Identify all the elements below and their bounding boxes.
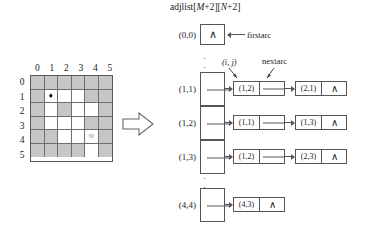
adj-node-nextarc — [260, 150, 284, 163]
grid-cell-wall — [99, 90, 113, 104]
adj-head-pointer-cell — [200, 72, 225, 106]
adj-node: (2,1) ∧ — [295, 81, 347, 96]
transform-arrow-icon — [122, 112, 154, 140]
adj-node-vertex: (1,3) — [296, 116, 322, 129]
head-to-node-link — [225, 81, 233, 96]
head-to-node-link — [225, 197, 233, 212]
adj-head-pointer-cell — [200, 188, 225, 222]
adj-head-pointer-cell — [200, 106, 225, 140]
head-to-node-link — [225, 115, 233, 130]
adj-node: (1,2) — [233, 81, 285, 96]
grid-cell-open — [45, 117, 59, 131]
grid-cell-open — [72, 130, 86, 144]
grid-cell-wall — [31, 76, 45, 90]
grid-col-header: 4 — [88, 62, 103, 75]
adj-row-2: (1,2) (1,1) (1,3) ∧ — [170, 112, 347, 133]
adj-row-label: (1,2) — [170, 118, 200, 128]
end-marker-icon: ☺ — [87, 133, 95, 141]
firstarc-label: firstarc — [247, 30, 271, 40]
grid-cell-wall — [85, 117, 99, 131]
grid-column-headers: 0 1 2 3 4 5 — [30, 62, 117, 75]
adj-row-1: (1,1) (1,2) (2,1) ∧ — [170, 78, 347, 99]
grid-cell-wall — [72, 144, 86, 158]
adj-row-0: (0,0) ∧ firstarc — [170, 24, 271, 45]
grid-cell-open — [72, 90, 86, 104]
adj-row-label: (1,1) — [170, 84, 200, 94]
grid-cell-open — [58, 130, 72, 144]
adj-node-nil: ∧ — [322, 82, 346, 95]
grid-cell-open — [85, 144, 99, 158]
grid-cell-wall — [31, 103, 45, 117]
adj-node-vertex: (2,3) — [296, 150, 322, 163]
grid-cell-open: ☺ — [85, 130, 99, 144]
grid-row: ♦ — [31, 90, 112, 104]
grid-cell-open — [58, 90, 72, 104]
maze-grid-panel: 0 1 2 3 4 5 0 1 2 3 4 5 ♦☺ — [14, 62, 117, 162]
grid-cell-wall — [99, 117, 113, 131]
node-to-node-link — [285, 149, 295, 164]
grid-row — [31, 103, 112, 117]
adj-node-vertex: (1,2) — [234, 150, 260, 163]
adj-node: (1,2) — [233, 149, 285, 164]
grid-row-header: 0 — [14, 75, 30, 90]
grid-col-header: 3 — [74, 62, 89, 75]
adj-node-vertex: (1,2) — [234, 82, 260, 95]
grid-cell-wall — [31, 130, 45, 144]
firstarc-leader — [227, 27, 245, 42]
grid-cell-open — [85, 103, 99, 117]
grid-cell-wall — [72, 76, 86, 90]
grid-cell-wall — [45, 144, 59, 158]
grid-cell-wall — [58, 76, 72, 90]
grid-cell-wall — [45, 76, 59, 90]
adj-row-label: (4,4) — [170, 200, 200, 210]
grid-row-headers: 0 1 2 3 4 5 — [14, 75, 30, 162]
adj-node-nextarc — [260, 116, 284, 129]
grid-cell-open — [72, 103, 86, 117]
adj-node: (1,3) ∧ — [295, 115, 347, 130]
grid-cell-open — [72, 117, 86, 131]
node-to-node-link — [285, 115, 295, 130]
adj-row-label: (0,0) — [170, 30, 200, 40]
adj-row-4: (4,4) (4,3) ∧ — [170, 194, 285, 215]
grid-row-header: 1 — [14, 90, 30, 105]
grid-row-header: 3 — [14, 119, 30, 134]
adj-node-vertex: (2,1) — [296, 82, 322, 95]
nil-symbol: ∧ — [209, 29, 217, 40]
figure-canvas: 0 1 2 3 4 5 0 1 2 3 4 5 ♦☺ adjlist[M+2][… — [0, 0, 367, 235]
adj-node-nextarc — [260, 82, 284, 95]
grid-cell-wall — [45, 130, 59, 144]
adjacency-list-panel: adjlist[M+2][N+2] (0,0) ∧ firstarc ··· (… — [170, 2, 367, 227]
grid-col-header: 1 — [45, 62, 60, 75]
grid-cell-open: ♦ — [45, 90, 59, 104]
adj-head-nil-cell: ∧ — [200, 24, 225, 45]
grid-cell-wall — [31, 117, 45, 131]
grid-cell-wall — [99, 130, 113, 144]
grid-row-header: 4 — [14, 133, 30, 148]
adj-node-nil: ∧ — [322, 116, 346, 129]
adj-node-vertex: (1,1) — [234, 116, 260, 129]
head-to-node-link — [225, 149, 233, 164]
grid-cell-wall — [99, 144, 113, 158]
adj-node: (2,3) ∧ — [295, 149, 347, 164]
grid-cell-wall — [99, 76, 113, 90]
adjlist-title: adjlist[M+2][N+2] — [170, 2, 240, 12]
grid-col-header: 0 — [30, 62, 45, 75]
grid-row — [31, 144, 112, 158]
grid-cell-wall — [31, 144, 45, 158]
grid-cell-wall — [99, 103, 113, 117]
grid-cell-wall — [58, 144, 72, 158]
adj-row-label: (1,3) — [170, 152, 200, 162]
node-to-node-link — [285, 81, 295, 96]
adj-head-pointer-cell — [200, 140, 225, 174]
grid-row-header: 2 — [14, 104, 30, 119]
grid-row — [31, 117, 112, 131]
grid-cells: ♦☺ — [30, 75, 113, 162]
start-marker-icon: ♦ — [49, 92, 53, 100]
grid-row-header: 5 — [14, 148, 30, 163]
grid-cell-wall — [58, 103, 72, 117]
grid-row — [31, 76, 112, 90]
grid-cell-open — [58, 117, 72, 131]
grid-col-header: 5 — [103, 62, 118, 75]
grid-row: ☺ — [31, 130, 112, 144]
adj-node-nil: ∧ — [260, 198, 284, 211]
